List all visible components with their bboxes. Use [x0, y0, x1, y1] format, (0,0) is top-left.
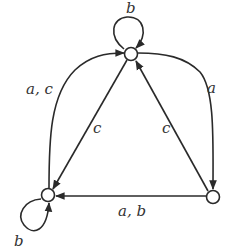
state-top	[125, 48, 138, 61]
automaton-diagram: b b a, c a c c a, b	[0, 0, 243, 251]
label-right-to-left: a, b	[118, 202, 146, 220]
label-left-to-top: a, c	[26, 80, 53, 98]
state-left	[42, 189, 55, 202]
edge-right-to-top	[136, 61, 208, 191]
state-right	[207, 191, 220, 204]
label-top-to-right: a	[207, 79, 216, 97]
edge-top-loop	[114, 17, 143, 49]
edge-top-to-right	[138, 53, 213, 189]
label-top-to-left: c	[93, 119, 102, 137]
edge-top-to-left	[53, 60, 127, 189]
label-top-loop: b	[126, 0, 136, 17]
edge-left-loop	[21, 199, 49, 231]
edge-left-to-top	[49, 53, 124, 188]
label-right-to-top: c	[162, 119, 171, 137]
label-left-loop: b	[14, 232, 24, 250]
